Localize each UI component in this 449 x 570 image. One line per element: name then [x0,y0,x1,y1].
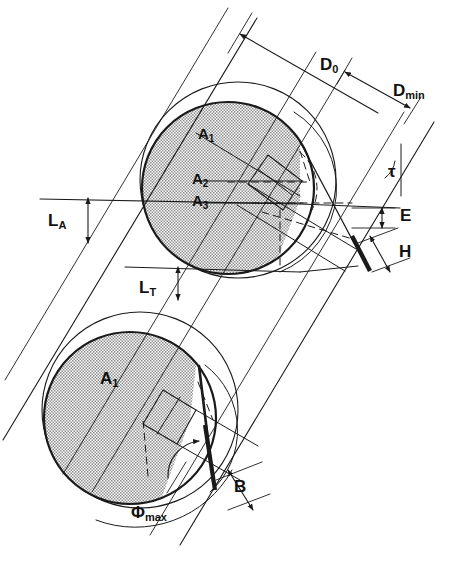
label-d0: D0 [320,56,338,75]
lower-engaged-area-fill [44,330,250,530]
label-width-b: B [234,478,246,497]
label-eccentricity: E [400,207,411,226]
label-area-a1-upper: A1 [198,126,214,144]
label-area-a2-upper: A2 [192,171,208,189]
label-length-axial: LA [48,212,66,231]
label-tau: τ [388,163,396,182]
diagram-canvas: D0 Dmin A1 A2 A3 A1 LA LT τ E H B Φmax [0,0,449,570]
right-ref-line-2 [300,266,358,272]
label-dmin: Dmin [393,82,425,101]
label-phi-max: Φmax [131,504,167,523]
d0-dim-line [240,34,378,113]
h-ext-top [358,228,398,243]
label-height: H [399,243,411,262]
dmin-ext-right [404,97,421,124]
label-length-tangential: LT [139,279,156,298]
technical-drawing-svg [0,0,449,570]
dmin-ext-left [337,58,352,84]
label-area-a3-upper: A3 [192,193,208,211]
label-area-a1-lower: A1 [100,370,118,389]
